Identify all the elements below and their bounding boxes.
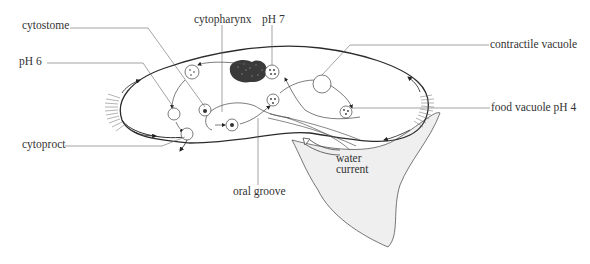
food-vacuole-mid <box>267 94 279 106</box>
label-contractile-vacuole: contractile vacuole <box>490 39 577 51</box>
water-current-region <box>292 113 440 247</box>
cilia-left <box>105 94 124 131</box>
label-ph6: pH 6 <box>19 56 42 68</box>
label-cytoproct: cytoproct <box>22 139 65 151</box>
cytoproct-vacuole <box>181 128 193 140</box>
food-vacuole-ph6 <box>185 65 199 79</box>
label-cytopharynx: cytopharynx <box>194 14 251 26</box>
food-vacuole-ph7 <box>265 65 279 79</box>
label-cytostome: cytostome <box>22 20 69 32</box>
vacuole-27 <box>168 108 180 120</box>
food-vacuole-ph4 <box>340 106 352 118</box>
contractile-vacuole <box>313 75 331 93</box>
macronucleus <box>230 60 267 82</box>
label-food-vacuole-ph4: food vacuole pH 4 <box>491 102 576 114</box>
label-oral-groove: oral groove <box>233 186 286 198</box>
label-ph7: pH 7 <box>262 14 285 26</box>
leader-lines <box>47 25 490 185</box>
label-water-current-2: current <box>336 164 369 176</box>
